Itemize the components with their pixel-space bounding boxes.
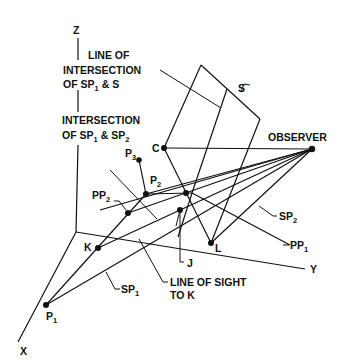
label-l: L [215,242,222,254]
point-c [161,145,167,151]
label-line-of-sight-1: LINE OF SIGHT [170,276,247,288]
point-pp1 [183,190,189,196]
label-line-of-intersection-3: OF SP1& S [63,78,119,93]
point-pp2 [125,210,131,216]
label-c: C [152,142,160,154]
label-plane-s: S [238,82,245,94]
point-k [95,245,101,251]
label-sp2: SP2 [279,210,297,225]
perspective-diagram: Z X Y [0,0,354,361]
label-p2: P2 [150,174,161,189]
point-j [177,207,183,213]
point-p3 [136,157,142,163]
label-intersection-sp-2: OF SP1& SP2 [62,129,129,144]
label-line-of-intersection-1: LINE OF [88,49,130,61]
y-axis-label: Y [310,263,317,275]
labels: LINE OF INTERSECTION OF SP1& S INTERSECT… [46,49,327,325]
point-p2 [143,191,149,197]
label-line-of-sight-2: TO K [170,289,195,301]
observer-point [309,146,315,152]
label-k: K [84,241,92,253]
label-pp1: PP1 [290,239,308,254]
label-sp1: SP1 [121,283,139,298]
point-p1 [43,302,49,308]
label-intersection-sp-1: INTERSECTION [62,114,140,126]
label-p1: P1 [46,310,57,325]
label-observer: OBSERVER [268,131,327,143]
x-axis [18,232,76,342]
label-p3: P3 [125,147,136,162]
label-line-of-intersection-2: INTERSECTION [63,64,141,76]
x-axis-label: X [20,345,27,357]
label-j: J [187,257,193,269]
label-pp2: PP2 [92,189,110,204]
z-axis-label: Z [73,24,80,36]
point-l [208,240,214,246]
z-axis-segment-bottom [76,145,78,232]
